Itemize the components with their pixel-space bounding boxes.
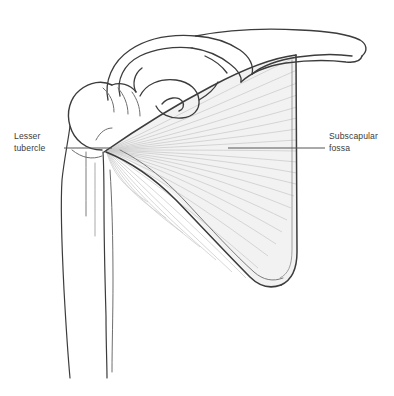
label-lesser-tubercle-line2: tubercle [14, 143, 45, 155]
acromioclavicular-contour [196, 36, 253, 74]
humerus-anatomical-neck [72, 150, 102, 158]
humerus-crest-line [110, 170, 113, 372]
humeral-head-contour [68, 82, 112, 150]
clavicle-superior-border [196, 29, 366, 56]
label-lesser-tubercle-line1: Lesser [14, 131, 45, 143]
anatomy-illustration [0, 0, 394, 396]
spine-of-scapula-edge [205, 56, 227, 73]
label-lesser-tubercle: Lesser tubercle [14, 131, 45, 154]
label-subscapular-fossa: Subscapular fossa [329, 131, 378, 154]
acromion-inner-contour [119, 47, 192, 96]
label-subscapular-fossa-line1: Subscapular [329, 131, 378, 143]
lesser-tubercle [96, 128, 112, 140]
greater-tubercle-facet-3 [132, 92, 140, 116]
humerus-shaft-medial-line [103, 152, 107, 378]
humerus [61, 82, 140, 378]
scapular-notch [134, 68, 142, 92]
label-subscapular-fossa-line2: fossa [329, 143, 378, 155]
humerus-shaft-lateral-line [61, 126, 70, 378]
anatomical-figure: Lesser tubercle Subscapular fossa [0, 0, 394, 396]
greater-tubercle [112, 84, 136, 92]
